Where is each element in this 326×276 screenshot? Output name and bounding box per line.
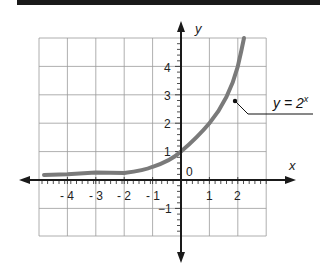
x-tick-label: 1 [206,189,213,203]
x-tick-label: - 1 [146,189,160,203]
x-axis-left-arrow-icon [19,176,30,184]
x-axis [19,176,296,184]
x-axis-right-arrow-icon [285,176,296,184]
equation-label: y = 2x [272,94,309,111]
grid [39,38,266,236]
x-axis-label: x [288,158,296,173]
x-tick-label: - 4 [60,189,74,203]
y-axis [177,21,185,263]
x-tick-label: - 2 [117,189,131,203]
y-tick-label: 4 [164,61,171,75]
y-tick-label: 2 [164,117,171,131]
y-tick-label: 3 [164,89,171,103]
y-axis-down-arrow-icon [177,252,185,263]
y-axis-up-arrow-icon [177,21,185,32]
y-tick-label: 1 [164,145,171,159]
x-tick-label: - 3 [89,189,103,203]
y-tick-label: −1 [158,202,172,216]
exponential-graph: y x 0 - 4 - 3 - 2 - 1 1 2 4 3 2 1 −1 y =… [0,0,326,276]
x-tick-label: 2 [234,189,241,203]
curve-y-equals-2-to-x [44,38,244,175]
origin-label: 0 [186,165,193,179]
curve-annotation: y = 2x [233,94,313,114]
y-axis-label: y [194,21,203,36]
